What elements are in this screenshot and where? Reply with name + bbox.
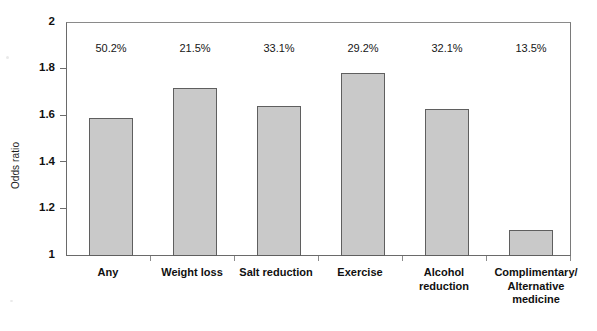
x-axis-category-labels: Any Weight loss Salt reduction Exercise … [66, 266, 571, 326]
y-tick-label: 1.4 [21, 156, 55, 168]
bar-salt-reduction [257, 106, 301, 256]
x-tick-mark [570, 256, 571, 261]
y-tick-label: 2 [21, 16, 55, 28]
scan-speck [6, 56, 9, 59]
x-category-line: Any [66, 266, 150, 280]
x-tick-mark [318, 256, 319, 261]
data-label-salt-reduction: 33.1% [243, 42, 315, 54]
data-label-weight-loss: 21.5% [159, 42, 231, 54]
x-category-line: Alcohol [402, 266, 486, 280]
data-label-any: 50.2% [75, 42, 147, 54]
x-tick-mark [234, 256, 235, 261]
data-label-complimentary-alternative-medicine: 13.5% [495, 42, 567, 54]
x-category-line: medicine [486, 293, 586, 307]
bar-weight-loss [173, 88, 217, 256]
x-axis-tick-marks [66, 256, 572, 263]
y-tick-label: 1 [21, 249, 55, 261]
bar-exercise [341, 73, 385, 256]
y-tick-label: 1.2 [21, 202, 55, 214]
bar-chart-figure: Odds ratio 2 1.8 1.6 1.4 1.2 1 50.2% 21.… [0, 0, 597, 331]
x-category-line: Weight loss [150, 266, 234, 280]
y-tick-label: 1.6 [21, 109, 55, 121]
bar-alcohol-reduction [425, 109, 469, 256]
data-label-alcohol-reduction: 32.1% [411, 42, 483, 54]
x-category-salt-reduction: Salt reduction [234, 266, 318, 280]
x-category-line: Exercise [318, 266, 402, 280]
bar-complimentary-alternative-medicine [509, 230, 553, 256]
data-label-exercise: 29.2% [327, 42, 399, 54]
x-category-line: Salt reduction [234, 266, 318, 280]
x-category-exercise: Exercise [318, 266, 402, 280]
y-tick-label: 1.8 [21, 62, 55, 74]
x-category-any: Any [66, 266, 150, 280]
x-tick-mark [486, 256, 487, 261]
x-tick-mark [150, 256, 151, 261]
x-category-weight-loss: Weight loss [150, 266, 234, 280]
x-category-complimentary-alternative-medicine: Complimentary/ Alternative medicine [486, 266, 586, 307]
bar-any [89, 118, 133, 256]
x-category-alcohol-reduction: Alcohol reduction [402, 266, 486, 293]
data-value-labels: 50.2% 21.5% 33.1% 29.2% 32.1% 13.5% [66, 42, 571, 60]
x-category-line: Complimentary/ [486, 266, 586, 280]
x-tick-mark [402, 256, 403, 261]
x-category-line: reduction [402, 280, 486, 294]
y-axis-tick-labels: 2 1.8 1.6 1.4 1.2 1 [10, 0, 55, 331]
x-category-line: Alternative [486, 280, 586, 294]
